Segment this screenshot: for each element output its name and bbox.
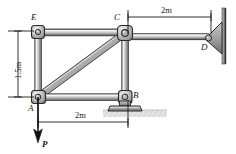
member-CB [121, 32, 128, 99]
joint-label-E: E [31, 13, 37, 22]
joint-label-D: D [201, 43, 208, 52]
member-CD [124, 33, 209, 40]
member-EA [34, 31, 41, 99]
joint-label-B: B [133, 91, 139, 100]
joint-label-A: A [28, 104, 34, 113]
joint-label-C: C [114, 13, 120, 22]
load-label-P: P [42, 140, 48, 149]
support-D-wall-pin [205, 8, 226, 64]
frame-truss-diagram: E C D A B P 2m 2m 1.5m [0, 0, 236, 154]
dimension-label-bottom: 2m [75, 111, 86, 120]
member-AC [37, 31, 125, 97]
member-EC [36, 29, 127, 37]
diagram-canvas [0, 0, 236, 154]
joint-C [118, 26, 133, 41]
dimension-label-left: 1.5m [14, 62, 23, 79]
support-B-ground-pin [103, 101, 167, 117]
dimension-label-top: 2m [161, 6, 172, 15]
joint-E [32, 26, 45, 39]
member-AB [36, 93, 127, 100]
